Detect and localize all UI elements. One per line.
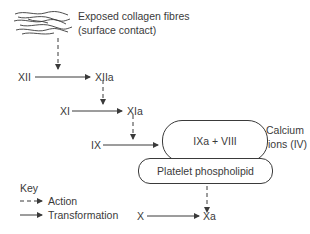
factor-ix: IX xyxy=(91,139,101,151)
collagen-fibres-icon xyxy=(14,12,72,34)
factor-xii: XII xyxy=(18,71,31,83)
platelet-phospholipid-box: Platelet phospholipid xyxy=(138,158,273,184)
factor-xi: XI xyxy=(60,105,70,117)
key-transformation-label: Transformation xyxy=(48,209,118,221)
key-title: Key xyxy=(20,182,38,194)
surface-contact-label: (surface contact) xyxy=(78,24,156,36)
calcium-ions-label: ions (IV) xyxy=(268,138,307,150)
key-action-label: Action xyxy=(48,195,77,207)
complex-ixa-viii-box: IXa + VIII xyxy=(162,120,268,162)
factor-xia: XIa xyxy=(127,105,143,117)
factor-xiia: XIIa xyxy=(95,71,114,83)
factor-x: X xyxy=(137,210,144,222)
calcium-label: Calcium xyxy=(266,124,304,136)
factor-xa: Xa xyxy=(203,210,216,222)
phospholipid-label: Platelet phospholipid xyxy=(157,165,254,177)
collagen-label: Exposed collagen fibres xyxy=(78,10,190,22)
complex-label: IXa + VIII xyxy=(193,135,236,147)
